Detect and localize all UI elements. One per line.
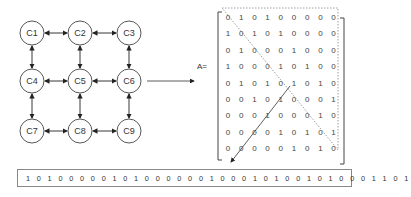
matrix-cell: 1 [279, 29, 284, 38]
matrix-cell: 1 [318, 111, 323, 120]
matrix-cell: 1 [252, 29, 257, 38]
matrix-cell: 1 [279, 62, 284, 71]
matrix-cell: 0 [226, 46, 231, 55]
matrix-cell: 0 [226, 79, 231, 88]
matrix-cell: 0 [279, 111, 284, 120]
node-c1: C1 [20, 21, 44, 45]
matrix-cell: 0 [305, 29, 310, 38]
matrix-cell: 0 [318, 29, 323, 38]
matrix-cell: 0 [292, 95, 297, 104]
svg-text:C3: C3 [123, 28, 135, 38]
matrix-cell: 0 [252, 13, 257, 22]
node-c7: C7 [20, 119, 44, 143]
matrix-cell: 0 [239, 111, 244, 120]
matrix-cell: 1 [318, 144, 323, 153]
matrix-cell: 0 [265, 95, 270, 104]
matrix-cell: 0 [265, 46, 270, 55]
node-c8: C8 [68, 119, 92, 143]
matrix-cell: 0 [279, 144, 284, 153]
left-bracket [218, 12, 222, 160]
matrix-cell: 0 [279, 79, 284, 88]
matrix-cell: 0 [265, 62, 270, 71]
matrix-cell: 0 [331, 29, 336, 38]
matrix-cell: 1 [331, 95, 336, 104]
matrix-cell: 1 [265, 79, 270, 88]
matrix-cell: 0 [226, 128, 231, 137]
matrix-cell: 0 [226, 13, 231, 22]
matrix-cell: 0 [252, 46, 257, 55]
matrix-cell: 0 [331, 46, 336, 55]
svg-text:C8: C8 [74, 126, 86, 136]
matrix-cell: 0 [265, 128, 270, 137]
matrix-cells: 0101000001010100000100010001000101000101… [226, 13, 337, 153]
matrix-cell: 1 [226, 62, 231, 71]
matrix-cell: 1 [239, 46, 244, 55]
matrix-cell: 1 [252, 95, 257, 104]
matrix-cell: 0 [265, 29, 270, 38]
matrix-cell: 1 [305, 128, 310, 137]
matrix-cell: 1 [318, 79, 323, 88]
matrix-cell: 1 [239, 13, 244, 22]
matrix-cell: 0 [239, 95, 244, 104]
bitstring-box: 1 0 1 0 0 0 0 0 1 0 1 0 0 0 0 0 0 1 0 0 … [17, 169, 352, 187]
node-c6: C6 [117, 69, 141, 93]
svg-text:C2: C2 [74, 28, 86, 38]
matrix-cell: 0 [292, 29, 297, 38]
svg-text:C9: C9 [123, 126, 135, 136]
matrix-cell: 1 [265, 13, 270, 22]
matrix-cell: 0 [252, 144, 257, 153]
svg-text:C4: C4 [26, 76, 38, 86]
matrix-cell: 0 [331, 13, 336, 22]
matrix-cell: 0 [305, 46, 310, 55]
matrix-cell: 1 [226, 29, 231, 38]
node-c9: C9 [117, 119, 141, 143]
matrix-cell: 0 [305, 13, 310, 22]
matrix-cell: 1 [292, 79, 297, 88]
matrix-cell: 1 [331, 128, 336, 137]
matrix-cell: 0 [279, 13, 284, 22]
svg-text:C1: C1 [26, 28, 38, 38]
matrix-cell: 0 [331, 79, 336, 88]
matrix-cell: 0 [305, 95, 310, 104]
matrix-cell: 0 [318, 46, 323, 55]
node-c2: C2 [68, 21, 92, 45]
matrix-cell: 1 [292, 144, 297, 153]
matrix-cell: 0 [226, 95, 231, 104]
matrix-cell: 0 [331, 111, 336, 120]
matrix-cell: 0 [292, 128, 297, 137]
matrix-cell: 0 [305, 79, 310, 88]
bitstring-text: 1 0 1 0 0 0 0 0 1 0 1 0 0 0 0 0 0 1 0 0 … [26, 174, 411, 183]
matrix-cell: 0 [331, 144, 336, 153]
matrix-cell: 0 [252, 62, 257, 71]
matrix-cell: 0 [305, 111, 310, 120]
matrix-cell: 0 [331, 62, 336, 71]
matrix-cell: 0 [305, 144, 310, 153]
matrix-cell: 0 [226, 111, 231, 120]
matrix-cell: 0 [252, 79, 257, 88]
matrix-cell: 0 [239, 62, 244, 71]
svg-text:C5: C5 [74, 76, 86, 86]
matrix-cell: 0 [292, 111, 297, 120]
matrix-cell: 0 [252, 111, 257, 120]
matrix-cell: 0 [292, 13, 297, 22]
matrix-cell: 0 [226, 144, 231, 153]
matrix-cell: 1 [239, 79, 244, 88]
matrix-cell: 0 [318, 95, 323, 104]
svg-text:C7: C7 [26, 126, 38, 136]
matrix-cell: 1 [292, 46, 297, 55]
matrix-cell: 0 [239, 29, 244, 38]
matrix-cell: 0 [318, 128, 323, 137]
matrix-label: A= [197, 62, 207, 71]
matrix-cell: 0 [239, 128, 244, 137]
matrix-cell: 1 [279, 128, 284, 137]
matrix-cell: 0 [318, 62, 323, 71]
svg-text:C6: C6 [123, 76, 135, 86]
matrix-cell: 1 [305, 62, 310, 71]
right-bracket [340, 18, 344, 164]
matrix-cell: 0 [265, 144, 270, 153]
graph-nodes: C1C2C3C4C5C6C7C8C9 [20, 21, 141, 143]
matrix-cell: 0 [292, 62, 297, 71]
node-c4: C4 [20, 69, 44, 93]
node-c5: C5 [68, 69, 92, 93]
